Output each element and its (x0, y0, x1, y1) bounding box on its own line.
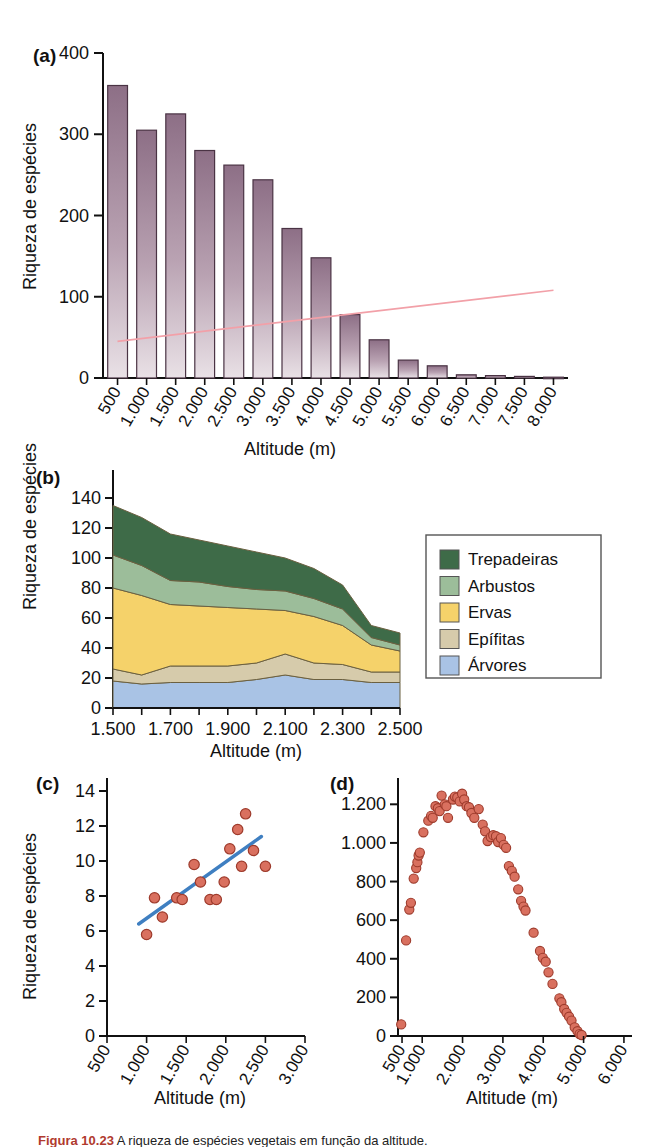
ytick-label: 4 (85, 956, 95, 976)
xtick-label: 2.500 (235, 1042, 273, 1088)
xtick-label: 6.000 (594, 1042, 632, 1088)
panel-b-xtick-group: 1.5001.7001.9002.1002.3002.500 (90, 708, 422, 739)
scatter-point (406, 898, 415, 907)
scatter-point (474, 805, 483, 814)
scatter-point (502, 843, 511, 852)
ytick-label: 0 (79, 368, 89, 388)
panel-d-points (397, 789, 587, 1039)
scatter-point (189, 859, 199, 869)
legend-label: Arbustos (468, 577, 535, 596)
xtick-label: 1.500 (90, 719, 135, 739)
ytick-label: 8 (85, 886, 95, 906)
panel-b-ylabel: Riqueza de espécies (20, 443, 40, 610)
scatter-point (409, 874, 418, 883)
panel-b-ytick-group: 020406080100120140 (71, 488, 113, 718)
ytick-label: 12 (75, 816, 95, 836)
scatter-point (521, 906, 530, 915)
ytick-label: 100 (59, 287, 89, 307)
figure-svg: (a) Riqueza de espécies 0100200300400 50… (0, 0, 655, 1147)
legend-swatch-árvores (440, 656, 459, 675)
bar (456, 375, 476, 378)
bar (486, 376, 506, 378)
legend-swatch-ervas (440, 603, 459, 622)
ytick-label: 20 (81, 668, 101, 688)
scatter-point (443, 813, 452, 822)
panel-c-tag: (c) (36, 773, 59, 794)
figure-caption: Figura 10.23 A riqueza de espécies veget… (38, 1133, 638, 1147)
caption-text: A riqueza de espécies vegetais em função… (114, 1133, 428, 1147)
xtick-label: 3.000 (473, 1042, 511, 1088)
ytick-label: 14 (75, 781, 95, 801)
scatter-point (415, 848, 424, 857)
xtick-label: 8.000 (523, 384, 561, 430)
ytick-label: 200 (356, 987, 386, 1007)
ytick-label: 140 (71, 488, 101, 508)
panel-b-legend: TrepadeirasArbustosErvasEpífitasÁrvores (426, 535, 601, 678)
legend-swatch-trepadeiras (440, 550, 459, 569)
figure-container: (a) Riqueza de espécies 0100200300400 50… (0, 0, 655, 1147)
scatter-point (149, 893, 159, 903)
scatter-point (577, 1030, 586, 1039)
xtick-label: 1.500 (156, 1042, 194, 1088)
panel-a-tag: (a) (33, 45, 56, 66)
panel-d-ytick-group: 02004006008001.0001.200 (341, 794, 398, 1046)
scatter-point (544, 968, 553, 977)
scatter-point (177, 894, 187, 904)
panel-c-ytick-group: 02468101214 (75, 781, 107, 1046)
scatter-point (195, 877, 205, 887)
panel-c-ylabel: Riqueza de espécies (20, 833, 40, 1000)
xtick-label: 5.000 (553, 1042, 591, 1088)
scatter-point (548, 979, 557, 988)
panel-c: (c) Riqueza de espécies 02468101214 5001… (20, 773, 312, 1108)
bar (195, 151, 215, 379)
scatter-point (541, 957, 550, 966)
panel-b-areas (113, 506, 400, 709)
bar (108, 86, 128, 379)
panel-d-tag: (d) (330, 773, 354, 794)
panel-d-xtick-group: 5001.0002.0003.0004.0005.0006.000 (379, 1036, 632, 1088)
bar (427, 366, 447, 378)
ytick-label: 40 (81, 638, 101, 658)
bar (340, 315, 360, 378)
scatter-point (248, 845, 258, 855)
scatter-point (141, 929, 151, 939)
bar (282, 229, 302, 379)
bar (515, 376, 535, 378)
scatter-point (157, 912, 167, 922)
panel-d-xlabel: Altitude (m) (466, 1088, 558, 1108)
ytick-label: 1.000 (341, 833, 386, 853)
legend-swatch-arbustos (440, 577, 459, 596)
legend-label: Ervas (468, 603, 511, 622)
legend-label: Árvores (468, 656, 527, 675)
ytick-label: 400 (356, 949, 386, 969)
ytick-label: 1.200 (341, 794, 386, 814)
xtick-label: 2.300 (320, 719, 365, 739)
ytick-label: 120 (71, 518, 101, 538)
ytick-label: 0 (376, 1026, 386, 1046)
xtick-label: 2.000 (196, 1042, 234, 1088)
scatter-point (510, 872, 519, 881)
caption-label: Figura 10.23 (38, 1133, 114, 1147)
bar (166, 114, 186, 378)
ytick-label: 60 (81, 608, 101, 628)
panel-d: (d) 02004006008001.0001.200 5001.0002.00… (330, 773, 632, 1108)
legend-label: Epífitas (468, 630, 525, 649)
panel-a: (a) Riqueza de espécies 0100200300400 50… (20, 43, 568, 459)
ytick-label: 800 (356, 872, 386, 892)
ytick-label: 200 (59, 206, 89, 226)
bar (398, 360, 418, 378)
xtick-label: 4.000 (513, 1042, 551, 1088)
bar (253, 180, 273, 378)
panel-c-xtick-group: 5001.0001.5002.0002.5003.000 (84, 1036, 313, 1088)
xtick-label: 2.000 (432, 1042, 470, 1088)
xtick-label: 3.000 (275, 1042, 313, 1088)
ytick-label: 300 (59, 124, 89, 144)
bar (369, 340, 389, 378)
xtick-label: 1.900 (205, 719, 250, 739)
xtick-label: 1.700 (148, 719, 193, 739)
scatter-point (529, 928, 538, 937)
legend-label: Trepadeiras (468, 550, 558, 569)
legend-swatch-epífitas (440, 630, 459, 649)
scatter-point (397, 1020, 406, 1029)
xtick-label: 2.100 (263, 719, 308, 739)
